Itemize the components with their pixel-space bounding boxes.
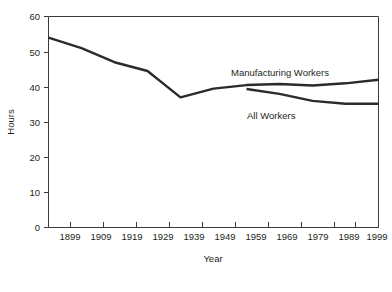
x-axis-title: Year — [203, 253, 222, 264]
y-tick-label: 50 — [29, 47, 40, 58]
y-tick-labels: 0 10 20 30 40 50 60 — [29, 11, 40, 233]
series-line-all-workers — [247, 89, 379, 104]
x-tick-label: 1999 — [366, 231, 387, 242]
x-tick-label: 1989 — [338, 231, 359, 242]
series-label-manufacturing-workers: Manufacturing Workers — [231, 67, 329, 78]
y-tick-label: 40 — [29, 82, 40, 93]
x-tick-label: 1929 — [152, 231, 173, 242]
x-tick-label: 1919 — [121, 231, 142, 242]
y-tick-label: 30 — [29, 117, 40, 128]
line-chart-canvas: 0 10 20 30 40 50 60 1899 1909 1919 1929 … — [0, 0, 392, 292]
y-tick-label: 20 — [29, 152, 40, 163]
x-tick-label: 1909 — [90, 231, 111, 242]
y-tick-label: 10 — [29, 187, 40, 198]
x-axis-ticks — [71, 222, 379, 228]
chart-figure: 0 10 20 30 40 50 60 1899 1909 1919 1929 … — [0, 0, 392, 292]
x-tick-label: 1939 — [183, 231, 204, 242]
x-tick-label: 1949 — [214, 231, 235, 242]
series-label-all-workers: All Workers — [247, 110, 296, 121]
x-tick-labels: 1899 1909 1919 1929 1939 1949 1959 1969 … — [59, 231, 387, 242]
y-tick-label: 60 — [29, 11, 40, 22]
x-tick-label: 1959 — [245, 231, 266, 242]
chart-axes — [49, 17, 379, 228]
y-axis-title: Hours — [5, 109, 16, 135]
x-tick-label: 1969 — [276, 231, 297, 242]
y-axis-ticks — [44, 17, 49, 228]
x-tick-label: 1979 — [307, 231, 328, 242]
x-tick-label: 1899 — [59, 231, 80, 242]
y-tick-label: 0 — [35, 222, 40, 233]
